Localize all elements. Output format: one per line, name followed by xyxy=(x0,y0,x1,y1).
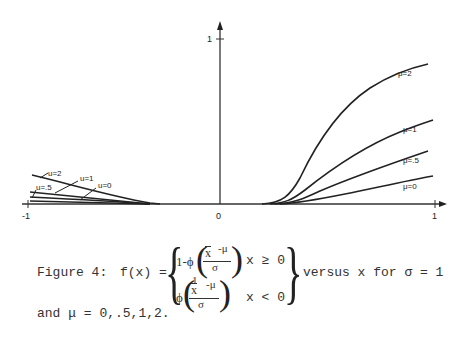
y-axis-arrow-icon xyxy=(217,21,223,30)
label-mu-05: μ=.5 xyxy=(403,156,420,165)
frac-top-minus-mu: -μ xyxy=(218,242,228,254)
x-axis-arrow-icon xyxy=(439,201,447,207)
right-brace: } xyxy=(284,238,302,308)
case-bottom-condition: x < 0 xyxy=(246,290,285,305)
frac-top-denominator: σ xyxy=(212,261,218,273)
caption-suffix: versus x for σ = 1 xyxy=(303,265,443,280)
label-left-u-1: u=1 xyxy=(80,174,94,183)
label-left-u-2: u=2 xyxy=(48,169,62,178)
case-top-condition: x ≥ 0 xyxy=(246,253,285,268)
label-mu-2: μ=2 xyxy=(398,69,412,78)
paren-close-top: ) xyxy=(231,238,243,280)
paren-close-bottom: ) xyxy=(219,272,231,314)
label-mu-1: μ=1 xyxy=(403,125,417,134)
label-left-u-0: u=0 xyxy=(98,181,112,190)
figure-caption-label: Figure 4: xyxy=(37,265,107,280)
figure-plot: 1 -1 0 1 μ=2 μ=1 μ=.5 μ=0 u=2 u=1 u=0 u=… xyxy=(0,0,470,240)
frac-bottom-numerator-x: x xyxy=(191,283,197,296)
case-bottom-expr: ϕ xyxy=(176,290,183,306)
caption-line2: and μ = 0,.5,1,2. xyxy=(37,306,170,321)
function-lhs: f(x) = xyxy=(120,265,167,280)
x-tick-neg1: -1 xyxy=(22,211,30,221)
x-tick-1: 1 xyxy=(432,211,437,221)
frac-bottom-bar xyxy=(189,298,219,299)
frac-bottom-denominator: σ xyxy=(198,298,204,310)
frac-bottom-minus-mu: -μ xyxy=(206,278,216,290)
y-tick-1: 1 xyxy=(207,34,212,44)
frac-top-numerator-x: x xyxy=(205,246,211,259)
label-left-u-05: u=.5 xyxy=(36,183,52,192)
label-mu-0: μ=0 xyxy=(403,182,417,191)
x-tick-0: 0 xyxy=(216,211,221,221)
case-top-expr: 1-ϕ xyxy=(176,254,194,270)
